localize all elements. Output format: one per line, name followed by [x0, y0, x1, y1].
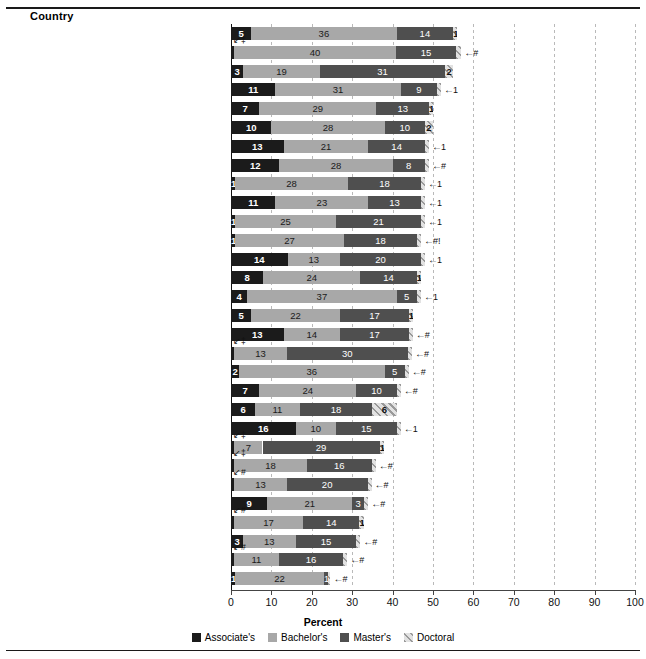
- leader-arrow-icon: ←: [432, 141, 441, 152]
- bar-segment-mast: 20: [340, 253, 421, 266]
- segment-value: 13: [243, 535, 296, 548]
- tick-label-50: 50: [427, 596, 439, 608]
- leader-arrow-icon: ←: [428, 216, 437, 227]
- bar-segment-doct: [397, 422, 401, 435]
- bar-segment-mast: 16: [307, 459, 372, 472]
- segment-value: 21: [267, 497, 352, 510]
- end-annotation: ←1: [428, 215, 442, 228]
- bar-row: Australia11319←1: [0, 80, 646, 98]
- bar-segment-mast: 30: [287, 347, 408, 360]
- bar-segment-mast: 15: [296, 535, 357, 548]
- bar-segment-assoc: 7: [231, 384, 259, 397]
- segment-value: 27: [235, 234, 344, 247]
- bar-segment-doct: [421, 196, 425, 209]
- segment-value: 20: [287, 478, 368, 491]
- stacked-bar: 319312: [231, 65, 635, 78]
- bar-segment-doct: [425, 159, 429, 172]
- bar-segment-bach: 24: [263, 271, 360, 284]
- bar-row: Israel12288←#: [0, 156, 646, 174]
- tick-90: [595, 590, 596, 595]
- segment-value: 3: [231, 65, 243, 78]
- bar-segment-doct: 2: [445, 65, 453, 78]
- bar-segment-bach: 13: [243, 535, 296, 548]
- bar-segment-assoc: 11: [231, 83, 275, 96]
- leader-arrow-icon: ←: [464, 47, 473, 58]
- segment-value: 23: [275, 196, 368, 209]
- segment-value: 21: [284, 140, 369, 153]
- bar-segment-doct: 1: [429, 102, 433, 115]
- bar-segment-mast: 14: [303, 516, 360, 529]
- bar-row: Netherlands12818←1: [0, 174, 646, 192]
- segment-value: 17: [340, 309, 409, 322]
- segment-value: 25: [235, 215, 336, 228]
- bar-segment-mast: 18: [300, 403, 373, 416]
- bar-row: Austria161015←1: [0, 419, 646, 437]
- segment-value: 24: [259, 384, 356, 397]
- stacked-bar: 824141: [231, 271, 635, 284]
- stacked-bar: 4015: [231, 46, 635, 59]
- bar-segment-mast: 8: [393, 159, 425, 172]
- segment-value: 17: [340, 328, 409, 341]
- legend-item-assoc: Associate's: [192, 632, 255, 643]
- bar-segment-doct: [421, 253, 425, 266]
- bar-segment-doct: [397, 384, 401, 397]
- bar-segment-mast: 14: [397, 27, 454, 40]
- segment-value: 31: [320, 65, 445, 78]
- end-annotation: ←#!: [424, 234, 441, 247]
- segment-value: 1: [417, 271, 421, 284]
- end-annotation: ←#: [412, 365, 426, 378]
- segment-value: 3: [352, 497, 364, 510]
- end-annotation: ←1: [428, 177, 442, 190]
- legend-label: Doctoral: [417, 632, 454, 643]
- leader-arrow-icon: ←: [424, 235, 433, 246]
- bar-segment-mast: 17: [340, 309, 409, 322]
- end-annotation: ←#: [379, 459, 393, 472]
- segment-value: 11: [231, 196, 275, 209]
- bar-segment-doct: [437, 83, 441, 96]
- end-annotation-value: 1: [441, 142, 446, 152]
- tick-70: [514, 590, 515, 595]
- tick-80: [554, 590, 555, 595]
- bar-segment-mast: 16: [279, 553, 344, 566]
- bar-row: Belgium12521←1: [0, 212, 646, 230]
- segment-value: 30: [287, 347, 408, 360]
- end-annotation-value: #: [421, 367, 426, 377]
- segment-value: 13: [288, 253, 341, 266]
- x-axis-label: Percent: [0, 616, 646, 628]
- end-annotation-value: 1: [437, 179, 442, 189]
- tick-label-30: 30: [346, 596, 358, 608]
- segment-value: 15: [296, 535, 357, 548]
- bar-row: Slovenia611186: [0, 400, 646, 418]
- segment-value: 13: [231, 140, 284, 153]
- bar-segment-bach: 21: [267, 497, 352, 510]
- bar-row: Germany17141: [0, 513, 646, 531]
- end-annotation: ←#: [432, 159, 446, 172]
- bar-row: Poland1330←#: [0, 344, 646, 362]
- bar-segment-mast: 21: [336, 215, 421, 228]
- bar-segment-bach: 37: [247, 290, 396, 303]
- end-annotation: ←1: [404, 422, 418, 435]
- bar-segment-bach: 13: [234, 347, 287, 360]
- bar-segment-bach: 31: [275, 83, 400, 96]
- tick-30: [352, 590, 353, 595]
- end-annotation-value: #: [359, 555, 364, 565]
- segment-value: 18: [344, 234, 417, 247]
- country-column-header: Country: [30, 10, 74, 22]
- stacked-bar: 1028102: [231, 121, 635, 134]
- stacked-bar: 611186: [231, 403, 635, 416]
- bar-row: Italy1116←#: [0, 550, 646, 568]
- stacked-bar: 161015: [231, 422, 635, 435]
- leader-arrow-icon: ←: [379, 460, 388, 471]
- bar-segment-doct: [364, 497, 368, 510]
- bar-segment-doct: 1: [453, 27, 457, 40]
- end-annotation: ←1: [428, 196, 442, 209]
- bar-segment-doct: [368, 478, 372, 491]
- segment-value: 11: [231, 83, 275, 96]
- end-annotation: ←#: [464, 46, 478, 59]
- tick-label-70: 70: [508, 596, 520, 608]
- tick-label-0: 0: [228, 596, 234, 608]
- stacked-bar: 1816: [231, 459, 635, 472]
- leader-arrow-icon: ←: [428, 178, 437, 189]
- segment-value: 2: [231, 365, 239, 378]
- legend-item-doct: Doctoral: [404, 632, 454, 643]
